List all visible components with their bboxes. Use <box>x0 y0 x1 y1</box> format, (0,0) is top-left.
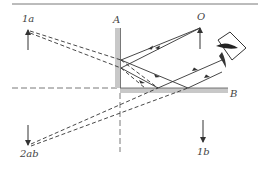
ray-arrow-6 <box>204 75 210 79</box>
virtual-ray-2ab-2 <box>31 88 188 146</box>
ray-b-to-eye-1 <box>158 60 222 88</box>
virtual-ray-1a-3 <box>121 60 158 88</box>
mirror-a <box>115 28 120 88</box>
virtual-ray-1a-4 <box>121 68 145 88</box>
ray-arrow-1 <box>148 46 153 50</box>
ray-a-to-b-1 <box>121 60 188 88</box>
image-1a-label: 1a <box>22 13 34 24</box>
virtual-ray-1a-2 <box>30 33 121 68</box>
ray-o-to-a-2 <box>121 28 200 68</box>
image-1b-label: 1b <box>197 146 210 157</box>
object-label: O <box>197 11 205 22</box>
mirror-b <box>120 88 228 93</box>
mirror-b-label: B <box>229 88 237 99</box>
virtual-ray-2ab-1 <box>31 88 158 144</box>
virtual-ray-1a-1 <box>30 31 121 60</box>
two-mirror-diagram: A B O 1a 1b 2ab <box>0 0 265 169</box>
eye-icon <box>216 32 246 68</box>
ray-b-to-eye-2 <box>188 72 222 88</box>
ray-o-to-a-1 <box>121 28 200 60</box>
image-2ab-label: 2ab <box>19 148 39 159</box>
mirror-a-label: A <box>112 14 120 25</box>
ray-a-to-b-2 <box>121 68 158 88</box>
